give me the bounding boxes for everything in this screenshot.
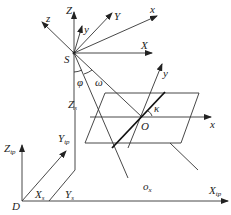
phi-arc <box>74 70 82 72</box>
label-z: z <box>45 12 51 24</box>
kappa-line <box>112 92 165 148</box>
label-S: S <box>64 53 70 65</box>
sensor-axes <box>42 12 157 55</box>
label-O: O <box>141 120 149 132</box>
label-Ys: Ys <box>65 188 74 202</box>
label-y: y <box>83 23 89 35</box>
label-plane-y: y <box>162 67 168 79</box>
kappa-arc <box>148 111 152 116</box>
label-omega: ω <box>95 76 103 88</box>
label-Zs: Zs <box>68 98 77 112</box>
z-axis-arrow <box>42 22 74 53</box>
label-Xs: Xs <box>34 188 45 202</box>
label-plane-x: x <box>209 118 215 130</box>
label-Ytp: Ytp <box>58 132 70 146</box>
label-phi: φ <box>77 76 83 88</box>
label-Z: Z <box>66 4 73 16</box>
ray-to-O <box>74 53 142 117</box>
label-Ztp: Ztp <box>4 142 16 156</box>
label-kappa: κ <box>154 102 160 114</box>
label-X: X <box>140 39 149 51</box>
label-D: D <box>11 200 20 212</box>
label-Xtp: Xtp <box>208 184 222 198</box>
label-Y: Y <box>114 10 122 22</box>
plane-projection-line <box>170 143 198 170</box>
label-ox: ox <box>143 180 153 194</box>
ray-to-ox <box>74 53 128 178</box>
omega-arc <box>84 70 92 74</box>
diagram-canvas: Z z y Y x X S φ ω Zs κ O x y Ztp Ytp Xs … <box>0 0 231 215</box>
label-x: x <box>149 3 155 15</box>
